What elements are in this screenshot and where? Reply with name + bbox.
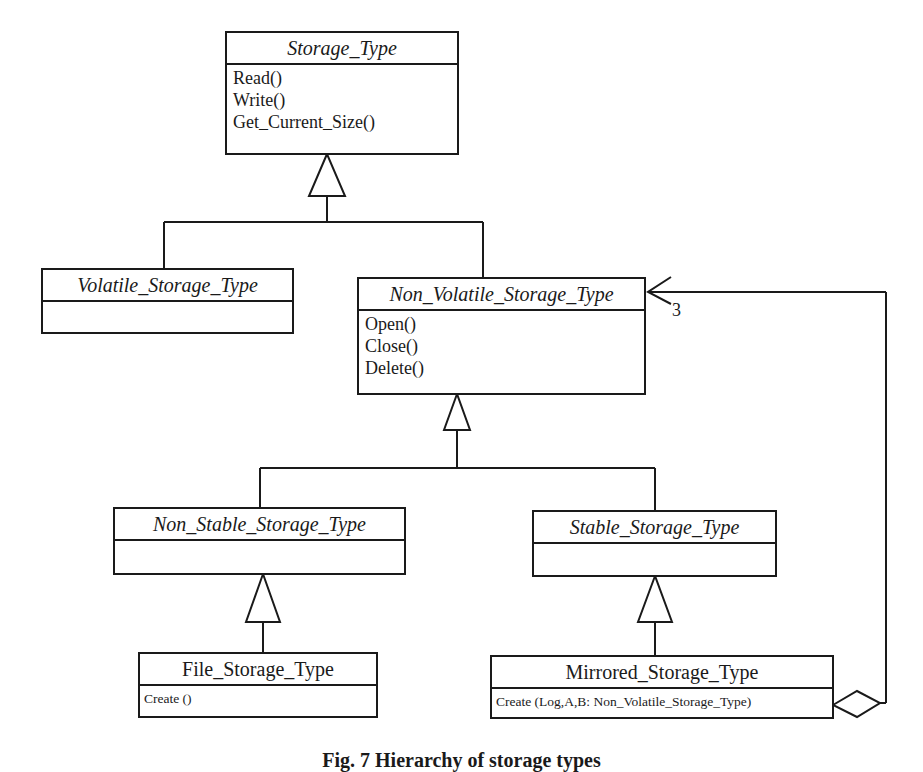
- class-volatile-storage-type: Volatile_Storage_Type: [41, 268, 294, 334]
- operations-list: Create (Log,A,B: Non_Volatile_Storage_Ty…: [492, 689, 832, 715]
- operations-list: Open() Close() Delete(): [359, 311, 644, 381]
- operation: Read(): [233, 67, 451, 89]
- generalization-arrow-icon: [638, 576, 672, 622]
- figure-caption: Fig. 7 Hierarchy of storage types: [0, 748, 923, 772]
- class-name: Storage_Type: [227, 33, 457, 65]
- class-storage-type: Storage_Type Read() Write() Get_Current_…: [225, 31, 459, 155]
- open-arrowhead-icon: [648, 277, 671, 304]
- operations-list: Create (): [140, 686, 376, 712]
- class-non-volatile-storage-type: Non_Volatile_Storage_Type Open() Close()…: [357, 277, 646, 395]
- operation: Create (): [144, 689, 372, 709]
- operation: Close(): [365, 335, 638, 357]
- operation: Get_Current_Size(): [233, 111, 451, 133]
- class-non-stable-storage-type: Non_Stable_Storage_Type: [113, 507, 406, 575]
- class-name: Volatile_Storage_Type: [43, 270, 292, 302]
- generalization-arrow-icon: [309, 154, 345, 196]
- class-name: Non_Volatile_Storage_Type: [359, 279, 644, 311]
- operations-list: Read() Write() Get_Current_Size(): [227, 65, 457, 135]
- operation: Open(): [365, 313, 638, 335]
- operation: Create (Log,A,B: Non_Volatile_Storage_Ty…: [496, 692, 828, 712]
- class-name: Non_Stable_Storage_Type: [115, 509, 404, 541]
- class-name: Stable_Storage_Type: [534, 512, 775, 544]
- class-name: Mirrored_Storage_Type: [492, 657, 832, 689]
- generalization-arrow-icon: [444, 394, 470, 430]
- class-mirrored-storage-type: Mirrored_Storage_Type Create (Log,A,B: N…: [490, 655, 834, 719]
- operation: Write(): [233, 89, 451, 111]
- class-file-storage-type: File_Storage_Type Create (): [138, 652, 378, 718]
- generalization-arrow-icon: [246, 574, 280, 622]
- class-stable-storage-type: Stable_Storage_Type: [532, 510, 777, 577]
- class-name: File_Storage_Type: [140, 654, 376, 686]
- operation: Delete(): [365, 357, 638, 379]
- multiplicity-label: 3: [672, 300, 681, 321]
- aggregation-diamond-icon: [833, 691, 880, 717]
